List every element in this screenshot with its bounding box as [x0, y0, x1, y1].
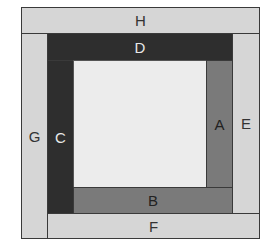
piece-c-label: C [55, 129, 66, 146]
piece-b: B [73, 187, 233, 214]
piece-f-label: F [149, 218, 158, 235]
piece-h: H [21, 7, 260, 34]
piece-c: C [47, 60, 74, 214]
piece-d: D [47, 33, 233, 61]
piece-g: G [21, 33, 48, 239]
piece-a-label: A [214, 116, 224, 133]
piece-h-label: H [135, 12, 146, 29]
piece-a: A [206, 60, 233, 188]
piece-f: F [47, 213, 260, 239]
piece-e: E [232, 33, 260, 214]
piece-e-label: E [241, 115, 251, 132]
piece-d-label: D [135, 39, 146, 56]
piece-g-label: G [29, 128, 41, 145]
center-square [73, 60, 207, 188]
piece-b-label: B [148, 192, 158, 209]
